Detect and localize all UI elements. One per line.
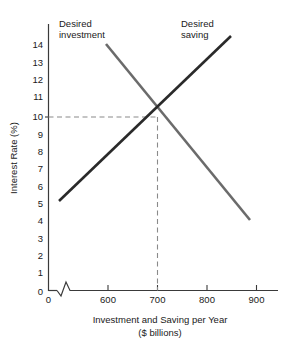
y-tick-label: 9 xyxy=(38,129,43,140)
x-tick-label: 800 xyxy=(199,294,215,305)
y-tick-label: 2 xyxy=(38,250,43,261)
desired-investment-curve xyxy=(106,44,250,220)
y-tick-label: 10 xyxy=(32,111,43,122)
desired-saving-label-line1: Desired xyxy=(181,18,214,29)
y-tick-label: 3 xyxy=(38,233,43,244)
y-tick-label: 5 xyxy=(38,198,43,209)
desired-investment-label-line2: investment xyxy=(59,29,105,40)
x-tick-label: 900 xyxy=(249,294,265,305)
x-axis-break-icon xyxy=(57,282,73,296)
y-tick-label: 1 xyxy=(38,267,43,278)
y-tick-label: 14 xyxy=(32,39,43,50)
desired-investment-label-line1: Desired xyxy=(59,18,92,29)
y-tick-label: 7 xyxy=(38,163,43,174)
x-tick-label: 0 xyxy=(46,294,51,305)
y-tick-label: 11 xyxy=(33,91,43,102)
desired-saving-label-line2: saving xyxy=(181,29,208,40)
y-tick-label: 12 xyxy=(32,74,43,85)
y-tick-label: 0 xyxy=(38,286,43,297)
x-tick-label: 600 xyxy=(100,294,116,305)
y-tick-label: 13 xyxy=(32,57,43,68)
x-tick-label: 700 xyxy=(150,294,166,305)
x-axis-title: Investment and Saving per Year xyxy=(93,314,228,325)
y-axis-title: Interest Rate (%) xyxy=(8,122,19,194)
y-tick-label: 4 xyxy=(38,215,43,226)
x-axis-units: ($ billions) xyxy=(138,327,181,338)
desired-saving-curve xyxy=(59,36,231,201)
chart-canvas: 14 13 12 11 10 9 8 7 6 5 4 3 2 1 0 0 600… xyxy=(0,0,284,350)
chart-figure: 14 13 12 11 10 9 8 7 6 5 4 3 2 1 0 0 600… xyxy=(0,0,284,350)
y-tick-label: 8 xyxy=(38,146,43,157)
y-tick-label: 6 xyxy=(38,181,43,192)
